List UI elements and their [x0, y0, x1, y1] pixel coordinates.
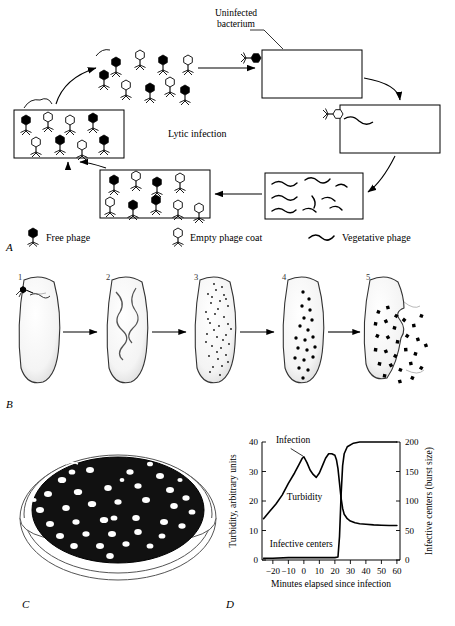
- callout-line-1: Uninfected: [215, 8, 257, 18]
- arrow-uninfected-to-injected: [364, 78, 400, 100]
- infection-leader-line: [291, 448, 303, 456]
- uninfected-bacterium-box: [262, 50, 362, 98]
- stage-number-3: 3: [194, 272, 198, 282]
- squiggle-icon: [309, 235, 334, 240]
- uninfected-bacterium-callout: Uninfected bacterium: [186, 8, 286, 30]
- lytic-infection-label: Lytic infection: [168, 128, 227, 140]
- x-tick-label: −10: [281, 566, 296, 576]
- y-tick-label: 30: [249, 467, 259, 477]
- legend-label-free-phage: Free phage: [46, 232, 90, 243]
- panel-c-plate: [14, 422, 229, 612]
- y-tick-label: 40: [249, 437, 259, 447]
- open-phage-icon: [173, 228, 184, 247]
- free-phage-cloud: [96, 50, 194, 105]
- legend-label-empty-phage-coat: Empty phage coat: [190, 232, 262, 243]
- infection-stage-3: [195, 277, 236, 383]
- x-tick-label: 10: [315, 566, 325, 576]
- panel-d-chart: −20−100102030405060010203040050100150200…: [222, 432, 452, 607]
- legend-label-vegetative-phage: Vegetative phage: [342, 232, 411, 243]
- x-tick-label: 40: [361, 566, 371, 576]
- panel-letter-b: B: [6, 398, 13, 410]
- x-tick-label: 20: [330, 566, 340, 576]
- y2-tick-label: 200: [405, 437, 419, 447]
- injected-bacterium-box: [340, 105, 440, 153]
- panel-letter-a: A: [6, 241, 13, 253]
- y-axis-label: Turbidity, arbitrary units: [228, 454, 238, 548]
- infection-stage-1: [16, 277, 60, 383]
- arrow-injected-to-vegetative: [368, 156, 395, 192]
- y-tick-label: 20: [249, 496, 259, 506]
- y2-tick-label: 100: [405, 496, 419, 506]
- attached-phage: [241, 53, 261, 64]
- y2-tick-label: 0: [405, 555, 410, 565]
- infection-stage-2: [107, 277, 148, 383]
- turbidity-annotation: Turbidity: [287, 492, 323, 502]
- y2-axis-label: Infective centers (burst size): [424, 447, 435, 555]
- y-tick-label: 10: [249, 526, 259, 536]
- arrow-lysis-to-free: [56, 68, 96, 104]
- infection-annotation: Infection: [276, 435, 311, 445]
- panel-letter-d: D: [226, 598, 234, 610]
- stage-number-1: 1: [18, 272, 22, 282]
- x-tick-label: 50: [377, 566, 387, 576]
- x-tick-label: 30: [346, 566, 356, 576]
- stage-number-4: 4: [282, 272, 287, 282]
- arrow-maturation-to-lysis-curve: [80, 162, 106, 168]
- y2-tick-label: 50: [405, 526, 415, 536]
- stage-number-2: 2: [106, 272, 110, 282]
- y-tick-label: 0: [254, 555, 259, 565]
- x-tick-label: −20: [266, 566, 281, 576]
- stage-number-5: 5: [366, 272, 370, 282]
- free-phage-icon: [28, 228, 39, 247]
- infection-stage-5: [364, 277, 428, 384]
- x-tick-label: 0: [302, 566, 307, 576]
- infective-centers-annotation: Infective centers: [270, 539, 333, 549]
- series-turbidity: [264, 454, 397, 526]
- panel-a-diagram: [0, 0, 455, 250]
- figure-root: Uninfected bacterium Lytic infection Fre…: [0, 0, 455, 626]
- x-axis-label: Minutes elapsed since infection: [271, 579, 391, 589]
- callout-line-2: bacterium: [217, 19, 255, 29]
- panel-b-diagram: 1 2 3 4 5: [0, 262, 455, 402]
- x-tick-label: 60: [392, 566, 402, 576]
- panel-letter-c: C: [22, 598, 29, 610]
- y2-tick-label: 150: [405, 467, 419, 477]
- infection-stage-4: [283, 277, 324, 383]
- callout-leader-line: [250, 30, 283, 49]
